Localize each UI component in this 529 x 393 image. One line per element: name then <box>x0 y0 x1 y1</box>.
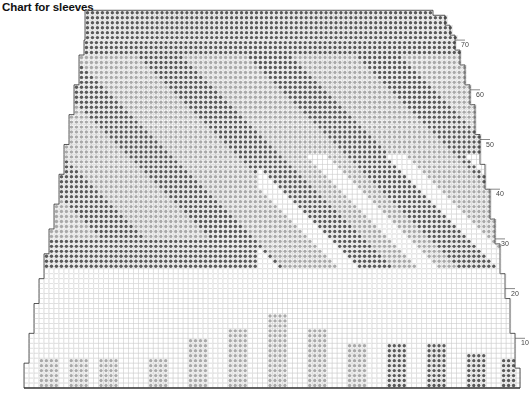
row-label-70: 70 <box>461 41 469 48</box>
row-label-30: 30 <box>501 240 509 247</box>
row-label-20: 20 <box>511 290 519 297</box>
row-label-60: 60 <box>476 91 484 98</box>
row-label-50: 50 <box>486 141 494 148</box>
knitting-chart-grid <box>0 0 529 393</box>
row-label-40: 40 <box>496 190 504 197</box>
row-label-10: 10 <box>521 339 529 346</box>
